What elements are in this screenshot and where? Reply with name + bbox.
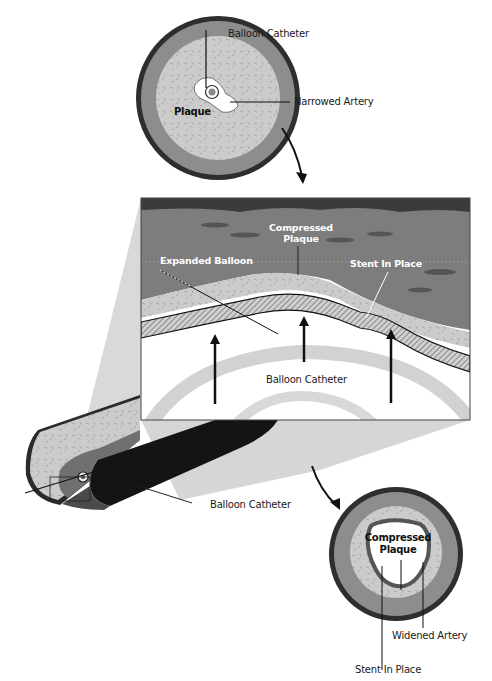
arrow-curve-icon [312,466,336,505]
label-widened-artery: Widened Artery [392,630,467,641]
label-detail-balloon-catheter: Balloon Catheter [266,374,347,385]
label-stent-in-place-detail: Stent In Place [350,258,422,269]
label-tube-balloon-catheter: Balloon Catheter [210,499,291,510]
angioplasty-diagram: Balloon Catheter Narrowed Artery Plaque … [0,0,492,681]
narrowed-artery-cross-section [136,16,300,180]
label-plaque: Plaque [174,106,211,118]
label-compressed-line2: Plaque [363,544,433,556]
label-compressed-plaque-detail: Compressed Plaque [266,222,336,244]
label-compressed-line2: Plaque [266,233,336,244]
label-top-balloon-catheter: Balloon Catheter [228,28,309,39]
label-compressed-line1: Compressed [266,222,336,233]
widened-artery-cross-section [329,487,463,670]
label-narrowed-artery: Narrowed Artery [294,96,373,107]
label-compressed-line1: Compressed [363,532,433,544]
label-expanded-balloon: Expanded Balloon [160,255,253,266]
label-stent-in-place-bottom: Stent In Place [355,664,421,675]
label-compressed-plaque-bottom: Compressed Plaque [363,532,433,556]
